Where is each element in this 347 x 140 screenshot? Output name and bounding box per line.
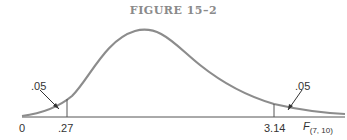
tick-label-lower: .27 xyxy=(58,122,73,134)
x-axis-label-main: F xyxy=(303,120,310,132)
upper-tail-label: .05 xyxy=(295,80,310,92)
x-axis-label: F(7, 10) xyxy=(303,120,333,135)
tick-label-upper: 3.14 xyxy=(264,122,285,134)
lower-tail-label: .05 xyxy=(31,80,46,92)
density-curve xyxy=(22,30,345,116)
tick-label-zero: 0 xyxy=(19,122,25,134)
x-axis-label-df: (7, 10) xyxy=(310,126,333,135)
f-distribution-plot xyxy=(0,0,347,140)
